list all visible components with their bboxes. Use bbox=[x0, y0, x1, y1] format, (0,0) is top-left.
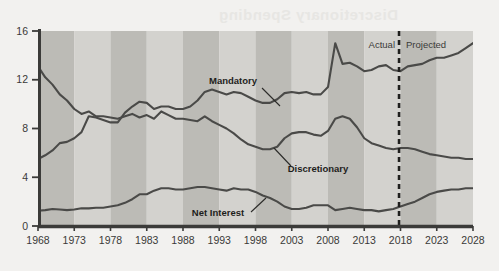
x-tick-label: 1973 bbox=[63, 234, 87, 246]
net-interest-label: Net Interest bbox=[192, 207, 245, 218]
projected-label: Projected bbox=[406, 39, 446, 50]
y-tick-label: 4 bbox=[22, 171, 28, 183]
y-axis-labels: 0481216 bbox=[16, 25, 28, 232]
chart-figure: Discretionary Spending 0481216 196819731… bbox=[0, 0, 499, 271]
x-tick-label: 2018 bbox=[389, 234, 413, 246]
x-tick-label: 1983 bbox=[135, 234, 159, 246]
y-tick-label: 8 bbox=[22, 122, 28, 134]
x-tick-label: 1998 bbox=[244, 234, 268, 246]
y-tick-label: 16 bbox=[16, 25, 28, 37]
x-tick-label: 2028 bbox=[461, 234, 485, 246]
alternating-year-bands bbox=[38, 31, 473, 226]
y-axis-ticks bbox=[32, 31, 38, 226]
discretionary-label: Discretionary bbox=[288, 163, 349, 174]
x-axis-labels: 1968197319781983198819931998200320082013… bbox=[26, 234, 485, 246]
x-tick-label: 1988 bbox=[171, 234, 195, 246]
x-tick-label: 1968 bbox=[26, 234, 50, 246]
y-tick-label: 0 bbox=[22, 220, 28, 232]
x-tick-label: 1978 bbox=[99, 234, 123, 246]
y-tick-label: 12 bbox=[16, 73, 28, 85]
x-tick-label: 1993 bbox=[208, 234, 232, 246]
x-tick-label: 2023 bbox=[425, 234, 449, 246]
mandatory-label: Mandatory bbox=[209, 75, 258, 86]
x-tick-label: 2003 bbox=[280, 234, 304, 246]
actual-label: Actual bbox=[369, 39, 395, 50]
x-tick-label: 2013 bbox=[353, 234, 377, 246]
spending-line-chart: 0481216 19681973197819831988199319982003… bbox=[0, 0, 499, 271]
x-tick-label: 2008 bbox=[316, 234, 340, 246]
